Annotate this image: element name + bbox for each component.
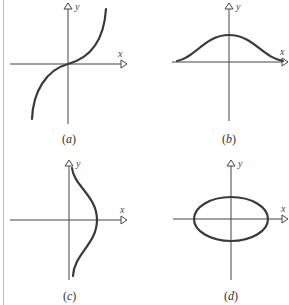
x-axis-label: x xyxy=(119,204,125,215)
panel-d: x y (d) xyxy=(173,158,288,303)
y-axis-label: y xyxy=(237,158,243,169)
caption-d: (d) xyxy=(224,289,238,303)
y-axis-arrow-icon xyxy=(225,3,233,9)
x-axis-arrow-icon xyxy=(282,215,288,223)
y-axis-label: y xyxy=(235,1,241,12)
y-axis-label: y xyxy=(74,1,80,12)
panel-b: x y (b) xyxy=(172,1,288,146)
caption-a: (a) xyxy=(62,132,76,146)
graph-figure: x y (a) x y (b) x y (c) x y (d) xyxy=(0,0,289,305)
y-axis-arrow-icon xyxy=(227,160,235,166)
panel-a: x y (a) xyxy=(10,1,127,146)
y-axis-label: y xyxy=(75,158,81,169)
x-axis-label: x xyxy=(280,203,286,214)
x-axis-label: x xyxy=(117,48,123,59)
caption-b: (b) xyxy=(222,132,236,146)
panel-c: x y (c) xyxy=(10,158,127,303)
caption-c: (c) xyxy=(63,289,76,303)
x-axis-label: x xyxy=(279,46,285,57)
curve-sideways-bell xyxy=(72,168,97,276)
y-axis-arrow-icon xyxy=(65,160,73,166)
x-axis-arrow-icon xyxy=(121,60,127,68)
y-axis-arrow-icon xyxy=(64,3,72,9)
x-axis-arrow-icon xyxy=(121,216,127,224)
curve-bell xyxy=(177,35,283,61)
